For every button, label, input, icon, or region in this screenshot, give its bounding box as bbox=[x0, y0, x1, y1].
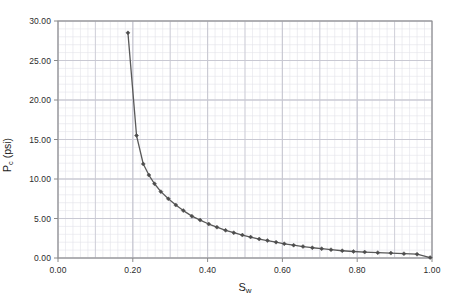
y-axis-title-subscript: c bbox=[6, 161, 15, 165]
y-axis-title-base: P bbox=[1, 165, 13, 172]
y-axis-tick-label: 30.00 bbox=[0, 16, 51, 26]
capillary-pressure-chart: Pc (psi) Sw 0.005.0010.0015.0020.0025.00… bbox=[0, 0, 452, 303]
x-axis-tick-label: 0.80 bbox=[349, 265, 366, 275]
y-axis-tick-label: 20.00 bbox=[0, 95, 51, 105]
y-axis-tick-label: 0.00 bbox=[0, 253, 51, 263]
y-axis-tick-label: 15.00 bbox=[0, 135, 51, 145]
y-axis-tick-label: 10.00 bbox=[0, 174, 51, 184]
chart-plot-svg bbox=[0, 0, 452, 303]
x-axis-tick-label: 0.60 bbox=[274, 265, 291, 275]
x-axis-title-subscript: w bbox=[246, 286, 252, 295]
x-axis-tick-label: 0.20 bbox=[124, 265, 141, 275]
x-axis-tick-label: 0.00 bbox=[50, 265, 67, 275]
y-axis-tick-label: 25.00 bbox=[0, 56, 51, 66]
x-axis-tick-label: 0.40 bbox=[199, 265, 216, 275]
x-axis-tick-label: 1.00 bbox=[424, 265, 441, 275]
x-axis-title: Sw bbox=[238, 281, 251, 295]
y-axis-tick-label: 5.00 bbox=[0, 214, 51, 224]
